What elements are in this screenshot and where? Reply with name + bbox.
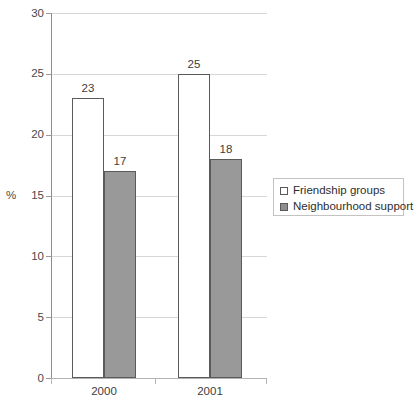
- y-tick-mark-20: [46, 135, 52, 136]
- x-tick-mark-middle: [155, 378, 156, 384]
- bar-2001-friendship-groups[interactable]: [178, 74, 210, 378]
- bar-label-2000-neighbourhood-support: 17: [104, 156, 136, 168]
- x-axis-label-2000: 2000: [72, 386, 136, 398]
- legend: Friendship groups Neighbourhood support: [273, 178, 404, 216]
- y-tick-label-20: 20: [4, 129, 44, 141]
- bar-2001-neighbourhood-support[interactable]: [210, 159, 242, 378]
- x-axis-line: [51, 378, 267, 379]
- bar-chart: 23 17 25 18 30 25 20 15 10 5 0 % 2000 20…: [0, 0, 416, 414]
- y-tick-label-25: 25: [4, 68, 44, 80]
- gridline-25: [51, 74, 267, 75]
- bar-2000-neighbourhood-support[interactable]: [104, 171, 136, 378]
- y-tick-mark-30: [46, 13, 52, 14]
- y-tick-mark-15: [46, 196, 52, 197]
- x-tick-mark-left: [51, 378, 52, 384]
- legend-swatch-icon-friendship-groups: [280, 187, 288, 195]
- legend-label-neighbourhood-support: Neighbourhood support: [293, 201, 413, 213]
- y-axis-title: %: [6, 190, 22, 202]
- gridline-30: [51, 13, 267, 14]
- x-axis-label-2001: 2001: [178, 386, 242, 398]
- legend-entry-friendship-groups[interactable]: Friendship groups: [280, 183, 398, 198]
- legend-label-friendship-groups: Friendship groups: [293, 185, 385, 197]
- legend-entry-neighbourhood-support[interactable]: Neighbourhood support: [280, 199, 398, 214]
- bar-label-2001-neighbourhood-support: 18: [210, 144, 242, 156]
- y-tick-mark-10: [46, 256, 52, 257]
- plot-area: 23 17 25 18: [51, 13, 267, 378]
- y-tick-mark-25: [46, 74, 52, 75]
- bar-2000-friendship-groups[interactable]: [72, 98, 104, 378]
- bar-label-2001-friendship-groups: 25: [178, 59, 210, 71]
- y-tick-label-5: 5: [4, 312, 44, 324]
- x-tick-mark-right: [266, 378, 267, 384]
- y-tick-label-10: 10: [4, 251, 44, 263]
- y-tick-label-0: 0: [4, 373, 44, 385]
- bar-label-2000-friendship-groups: 23: [72, 83, 104, 95]
- y-tick-mark-5: [46, 317, 52, 318]
- legend-swatch-icon-neighbourhood-support: [280, 203, 288, 211]
- y-tick-label-30: 30: [4, 8, 44, 20]
